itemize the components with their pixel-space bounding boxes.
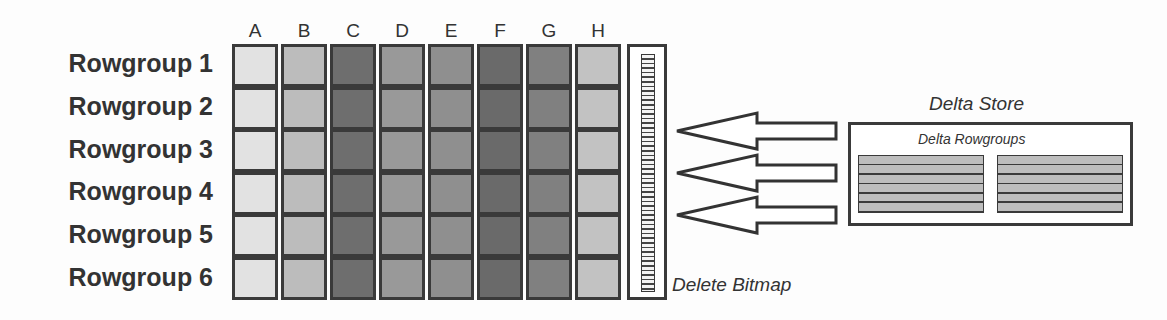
delta-store-title: Delta Store [929,93,1024,115]
delta-rowgroup-1 [858,155,984,213]
delta-rowgroup-2 [997,155,1123,213]
delta-rowgroups-label: Delta Rowgroups [918,131,1025,147]
delta-store: Delta Rowgroups [848,122,1133,226]
left-arrow-icon [677,155,836,191]
left-arrow-icon [677,197,836,233]
left-arrow-icon [677,113,836,149]
